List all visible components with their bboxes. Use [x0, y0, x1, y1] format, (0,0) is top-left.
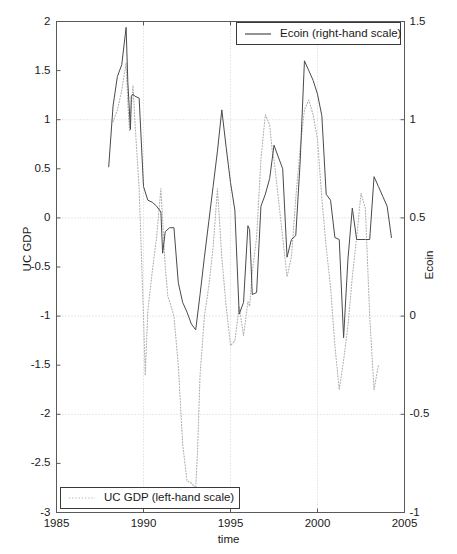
line-uc-gdp — [113, 63, 378, 488]
x-tick-label: 2000 — [288, 517, 348, 529]
dotted-line-icon — [68, 492, 96, 504]
y-tick-label-right: -0.5 — [410, 407, 450, 419]
y-tick-label-left: 1.5 — [11, 64, 51, 76]
y-tick-label-left: 0 — [11, 211, 51, 223]
y-tick-label-left: 0.5 — [11, 162, 51, 174]
y-tick-label-left: -1 — [11, 309, 51, 321]
y-tick-label-left: 2 — [11, 15, 51, 27]
y-tick-label-right: 1 — [410, 113, 450, 125]
y-tick-label-left: -3 — [11, 506, 51, 518]
series-uc-gdp — [113, 63, 378, 488]
x-tick-label: 1995 — [201, 517, 261, 529]
y-tick-label-left: 1 — [11, 113, 51, 125]
chart-figure: UC GDP Ecoin time 1985199019952000200521… — [0, 0, 457, 554]
legend-ecoin[interactable]: Ecoin (right-hand scale) — [236, 22, 401, 45]
y-tick-label-right: 0 — [410, 309, 450, 321]
x-tick-label: 2005 — [375, 517, 435, 529]
x-axis-title: time — [0, 533, 457, 545]
solid-line-icon — [244, 28, 272, 40]
legend-ecoin-label: Ecoin (right-hand scale) — [280, 28, 401, 40]
legend-uc-gdp-label: UC GDP (left-hand scale) — [104, 492, 234, 504]
legend-uc-gdp[interactable]: UC GDP (left-hand scale) — [60, 487, 240, 509]
x-tick-label: 1990 — [114, 517, 174, 529]
y-tick-label-left: -2.5 — [11, 456, 51, 468]
y-tick-label-right: -1 — [410, 506, 450, 518]
y-tick-label-right: 0.5 — [410, 211, 450, 223]
gridlines — [57, 22, 405, 513]
y-axis-right-title: Ecoin — [423, 235, 435, 295]
y-tick-label-right: 1.5 — [410, 15, 450, 27]
x-tick-label: 1985 — [27, 517, 87, 529]
series-ecoin — [109, 27, 392, 337]
line-ecoin — [109, 27, 392, 337]
y-tick-label-left: -1.5 — [11, 358, 51, 370]
plot-canvas — [0, 0, 457, 554]
y-tick-label-left: -0.5 — [11, 260, 51, 272]
y-tick-label-left: -2 — [11, 407, 51, 419]
